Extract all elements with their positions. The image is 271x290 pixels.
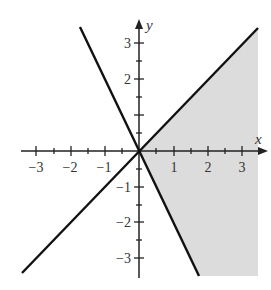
x-tick-label: −3 (29, 160, 44, 175)
y-axis-label: y (144, 17, 153, 33)
x-axis-arrow-icon (258, 147, 268, 155)
coordinate-graph: x y −3 −2 −1 1 2 3 3 2 −1 −2 −3 (0, 0, 271, 290)
y-tick-label: −1 (116, 180, 131, 195)
x-axis-label: x (254, 131, 262, 147)
y-axis-arrow-icon (135, 19, 143, 29)
y-tick-label: 3 (124, 36, 131, 51)
y-tick-label: 2 (124, 72, 131, 87)
x-tick-label: 1 (171, 160, 178, 175)
x-tick-label: −1 (97, 160, 112, 175)
x-tick-label: 2 (205, 160, 212, 175)
shaded-region (139, 28, 258, 276)
x-tick-label: −2 (63, 160, 78, 175)
y-tick-label: −3 (116, 251, 131, 266)
x-tick-label: 3 (239, 160, 246, 175)
y-tick-label: −2 (116, 215, 131, 230)
